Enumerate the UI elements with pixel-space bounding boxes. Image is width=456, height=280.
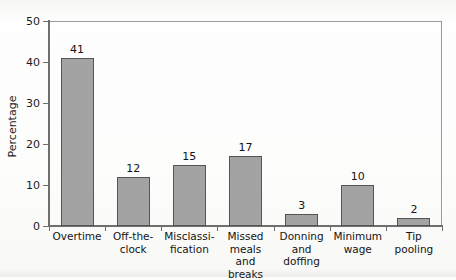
bar-slot-misclassification: 15 [161,21,217,226]
x-label-minimum-wage: Minimum wage [330,230,386,280]
bar-slot-overtime: 41 [49,21,105,226]
bar-value-donning-and-doffing: 3 [298,200,305,211]
x-label-missed-meals-and-breaks: Missed meals and breaks [217,230,273,280]
bar-slot-tip-pooling: 2 [386,21,442,226]
bar-value-missed-meals-and-breaks: 17 [238,142,252,153]
bar-series: 41 12 15 17 3 10 2 [49,21,442,226]
y-tick-label-50: 50 [6,16,40,27]
bar-off-the-clock[interactable] [117,177,150,226]
x-label-donning-and-doffing: Donning and doffing [274,230,330,280]
bar-value-tip-pooling: 2 [410,204,417,215]
y-axis-title: Percentage [6,77,19,177]
bar-donning-and-doffing[interactable] [285,214,318,226]
x-axis-labels: Overtime Off-the- clock Misclassi- ficat… [49,230,442,280]
bar-tip-pooling[interactable] [397,218,430,226]
x-label-tip-pooling: Tip pooling [386,230,442,280]
bar-missed-meals-and-breaks[interactable] [229,156,262,226]
bar-value-misclassification: 15 [182,151,196,162]
x-label-overtime: Overtime [49,230,105,280]
x-label-off-the-clock: Off-the- clock [105,230,161,280]
bar-slot-donning-and-doffing: 3 [274,21,330,226]
bar-misclassification[interactable] [173,165,206,227]
bar-minimum-wage[interactable] [341,185,374,226]
bar-slot-minimum-wage: 10 [330,21,386,226]
bar-overtime[interactable] [61,58,94,226]
y-tick-label-30: 30 [6,98,40,109]
cut-off-caption [60,0,360,6]
bar-value-minimum-wage: 10 [351,171,365,182]
bar-slot-missed-meals-and-breaks: 17 [217,21,273,226]
x-tick-mark-7 [442,225,443,231]
y-tick-label-20: 20 [6,139,40,150]
bar-value-overtime: 41 [70,44,84,55]
x-label-misclassification: Misclassi- fication [161,230,217,280]
bar-slot-off-the-clock: 12 [105,21,161,226]
y-tick-label-0: 0 [6,221,40,232]
bar-value-off-the-clock: 12 [126,163,140,174]
y-tick-label-40: 40 [6,57,40,68]
y-tick-label-10: 10 [6,180,40,191]
